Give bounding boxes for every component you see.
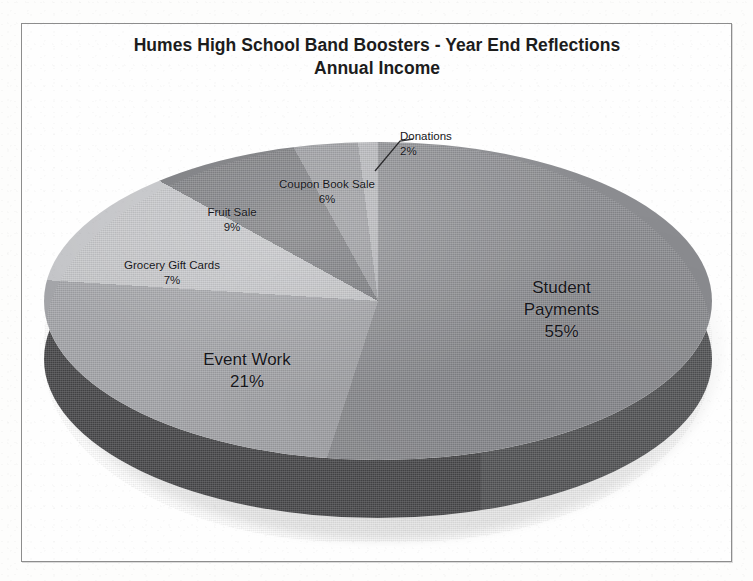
pie-label-coupon-book-sale: Coupon Book Sale 6% xyxy=(257,177,397,207)
label-percent-donations: 2% xyxy=(400,144,500,159)
pie-label-grocery-gift-cards: Grocery Gift Cards 7% xyxy=(88,258,256,288)
scanned-page: Humes High School Band Boosters - Year E… xyxy=(0,0,753,581)
label-percent-coupon-book-sale: 6% xyxy=(257,192,397,207)
label-text-coupon-book-sale: Coupon Book Sale xyxy=(257,177,397,192)
label-text-student-payments-line-1: Student xyxy=(474,277,649,299)
label-text-fruit-sale: Fruit Sale xyxy=(174,205,290,220)
label-percent-event-work: 21% xyxy=(162,371,332,393)
pie-label-donations: Donations 2% xyxy=(400,129,500,159)
pie-label-student-payments: Student Payments 55% xyxy=(474,277,649,343)
pie-label-event-work: Event Work 21% xyxy=(162,349,332,393)
label-percent-student-payments: 55% xyxy=(474,321,649,343)
chart-frame: Humes High School Band Boosters - Year E… xyxy=(21,23,732,562)
label-text-event-work: Event Work xyxy=(162,349,332,371)
label-percent-fruit-sale: 9% xyxy=(174,220,290,235)
label-text-donations: Donations xyxy=(400,129,500,144)
pie-chart[interactable]: Student Payments 55% Event Work 21% Groc… xyxy=(22,24,733,563)
label-text-grocery-gift-cards: Grocery Gift Cards xyxy=(88,258,256,273)
label-text-student-payments-line-2: Payments xyxy=(474,299,649,321)
label-percent-grocery-gift-cards: 7% xyxy=(88,273,256,288)
pie-label-fruit-sale: Fruit Sale 9% xyxy=(174,205,290,235)
